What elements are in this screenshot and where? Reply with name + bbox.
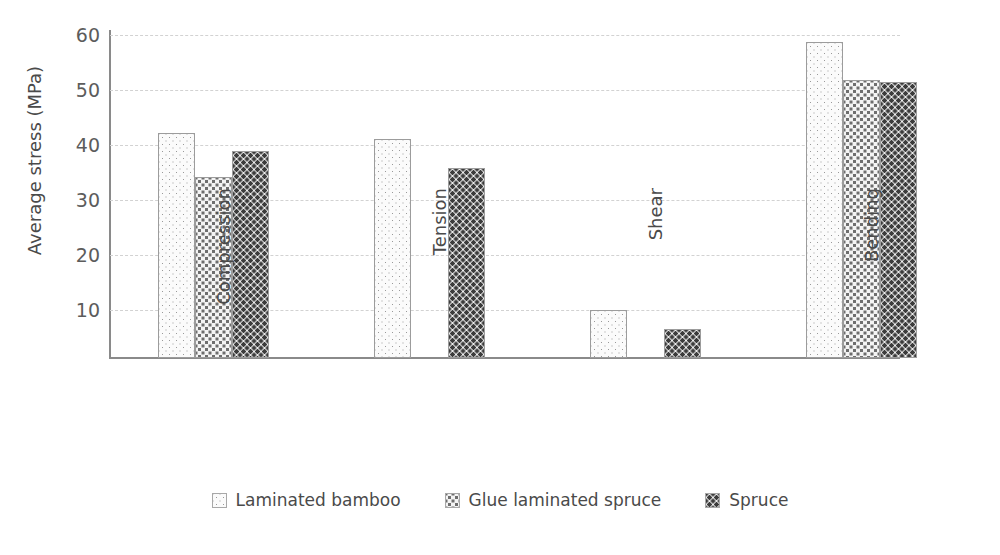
legend-item-glue-laminated-spruce[interactable]: Glue laminated spruce xyxy=(445,490,662,510)
bar-bending-laminated-bamboo[interactable] xyxy=(806,42,843,358)
y-tick-20: 20 xyxy=(52,246,100,265)
y-tick-40: 40 xyxy=(52,136,100,155)
y-tick-60: 60 xyxy=(52,26,100,45)
bar-tension-laminated-bamboo[interactable] xyxy=(374,139,411,358)
bar-compression-spruce[interactable] xyxy=(232,151,269,358)
chart-page: Average stress (MPa) 10 20 30 40 50 60 xyxy=(0,0,1000,555)
chart-legend: Laminated bamboo Glue laminated spruce S… xyxy=(0,490,1000,510)
bar-shear-laminated-bamboo[interactable] xyxy=(590,310,627,358)
legend-swatch-icon-laminated-bamboo xyxy=(212,493,227,508)
x-label-shear: Shear xyxy=(645,188,666,368)
legend-label-spruce: Spruce xyxy=(729,490,788,510)
x-label-compression: Compression xyxy=(213,188,234,368)
gridline-60 xyxy=(110,35,900,36)
y-tick-30: 30 xyxy=(52,191,100,210)
x-label-bending: Bending xyxy=(861,188,882,368)
bar-bending-spruce[interactable] xyxy=(880,82,917,358)
gridline-40 xyxy=(110,145,900,146)
legend-label-glue-laminated-spruce: Glue laminated spruce xyxy=(469,490,662,510)
legend-swatch-icon-glue-laminated-spruce xyxy=(445,493,460,508)
y-axis-tick-labels: 10 20 30 40 50 60 xyxy=(42,33,100,358)
bar-tension-spruce[interactable] xyxy=(448,168,485,358)
x-label-tension: Tension xyxy=(429,188,450,368)
legend-item-spruce[interactable]: Spruce xyxy=(705,490,788,510)
y-tick-10: 10 xyxy=(52,301,100,320)
legend-label-laminated-bamboo: Laminated bamboo xyxy=(236,490,401,510)
gridline-50 xyxy=(110,90,900,91)
bar-compression-laminated-bamboo[interactable] xyxy=(158,133,195,359)
legend-swatch-icon-spruce xyxy=(705,493,720,508)
bar-shear-spruce[interactable] xyxy=(664,329,701,358)
y-tick-50: 50 xyxy=(52,81,100,100)
legend-item-laminated-bamboo[interactable]: Laminated bamboo xyxy=(212,490,401,510)
